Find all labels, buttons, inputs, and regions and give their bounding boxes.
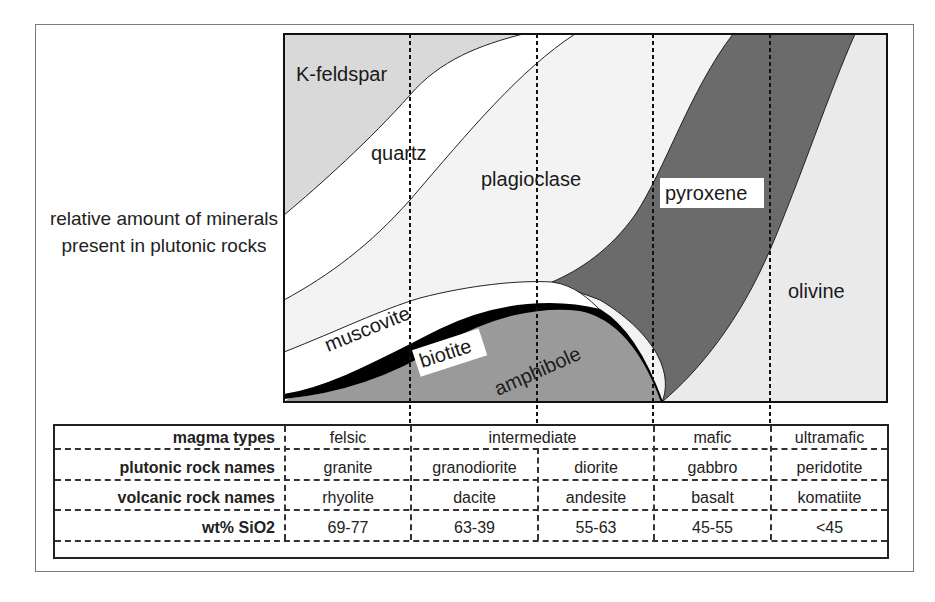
sio2-ultramafic: <45 bbox=[772, 517, 887, 539]
rock-classification-table: magma types felsic intermediate mafic ul… bbox=[53, 424, 889, 559]
magma-ultramafic: ultramafic bbox=[772, 427, 887, 449]
volcanic-komatiite: komatiite bbox=[772, 487, 887, 509]
label-quartz: quartz bbox=[371, 142, 427, 164]
label-pyroxene: pyroxene bbox=[665, 182, 747, 204]
magma-felsic: felsic bbox=[286, 427, 410, 449]
label-olivine: olivine bbox=[788, 280, 845, 302]
row-divider bbox=[55, 509, 887, 511]
row-header-volcanic: volcanic rock names bbox=[55, 487, 275, 509]
volcanic-andesite: andesite bbox=[539, 487, 653, 509]
plutonic-gabbro: gabbro bbox=[655, 457, 770, 479]
row-divider bbox=[55, 540, 887, 542]
plutonic-granodiorite: granodiorite bbox=[412, 457, 537, 479]
sio2-diorite: 55-63 bbox=[539, 517, 653, 539]
label-k-feldspar: K-feldspar bbox=[296, 63, 387, 85]
sio2-mafic: 45-55 bbox=[655, 517, 770, 539]
plutonic-diorite: diorite bbox=[539, 457, 653, 479]
magma-intermediate: intermediate bbox=[412, 427, 653, 449]
row-header-plutonic: plutonic rock names bbox=[55, 457, 275, 479]
plutonic-granite: granite bbox=[286, 457, 410, 479]
volcanic-basalt: basalt bbox=[655, 487, 770, 509]
row-divider bbox=[55, 479, 887, 481]
plutonic-peridotite: peridotite bbox=[772, 457, 887, 479]
volcanic-dacite: dacite bbox=[412, 487, 537, 509]
sio2-felsic: 69-77 bbox=[286, 517, 410, 539]
label-plagioclase: plagioclase bbox=[481, 168, 581, 190]
volcanic-rhyolite: rhyolite bbox=[286, 487, 410, 509]
sio2-granodiorite: 63-39 bbox=[412, 517, 537, 539]
row-header-magma-types: magma types bbox=[55, 427, 275, 449]
magma-mafic: mafic bbox=[655, 427, 770, 449]
row-header-sio2: wt% SiO2 bbox=[55, 517, 275, 539]
